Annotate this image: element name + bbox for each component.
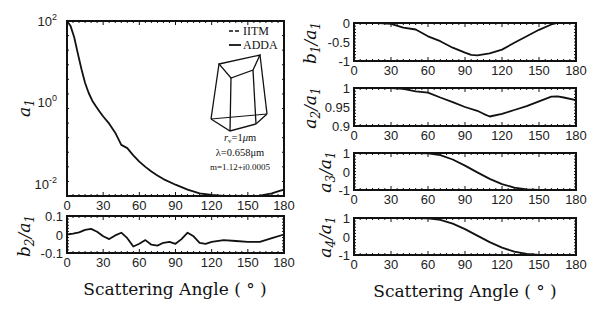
scattering-matrix-figure: 030609012015018010210010-203060901201501… <box>0 0 604 309</box>
x-tick-label: 60 <box>132 255 146 270</box>
panel-a4a1: 030609012015018010-1 <box>338 211 586 272</box>
x-tick-label: 30 <box>384 128 398 143</box>
x-tick-label: 120 <box>201 255 223 270</box>
x-tick-label: 150 <box>237 198 259 213</box>
ylabel-b1a1: b1/a1 <box>300 22 323 64</box>
x-tick-label: 30 <box>384 63 398 78</box>
x-tick-label: 120 <box>491 63 513 78</box>
x-tick-label: 60 <box>421 257 435 272</box>
y-tick-label: -0.1 <box>41 246 63 261</box>
x-tick-label: 180 <box>273 198 295 213</box>
legend-label-adda: ADDA <box>243 38 278 52</box>
series-adda <box>67 229 284 247</box>
x-tick-label: 180 <box>273 255 295 270</box>
x-tick-label: 30 <box>96 198 110 213</box>
x-tick-label: 0 <box>350 128 357 143</box>
x-tick-label: 90 <box>168 255 182 270</box>
series-adda <box>354 23 576 55</box>
x-tick-label: 0 <box>350 192 357 207</box>
x-tick-label: 180 <box>565 63 587 78</box>
x-tick-label: 150 <box>528 257 550 272</box>
x-tick-label: 90 <box>458 192 472 207</box>
y-tick-label: 102 <box>38 12 57 29</box>
axes-frame <box>354 153 576 190</box>
x-tick-label: 0 <box>63 198 70 213</box>
x-tick-label: 150 <box>528 192 550 207</box>
x-tick-label: 120 <box>491 192 513 207</box>
x-tick-label: 60 <box>421 192 435 207</box>
x-tick-label: 0 <box>350 257 357 272</box>
x-tick-label: 150 <box>237 255 259 270</box>
y-tick-label: 0.9 <box>332 119 350 134</box>
panel-a3a1: 030609012015018010-1 <box>338 146 586 207</box>
x-tick-label: 0 <box>350 63 357 78</box>
annotation-refractive-index: m=1.12+i0.0005 <box>210 162 271 172</box>
axes-frame <box>354 218 576 255</box>
panel-a2a1: 030609012015018010.950.9 <box>325 81 587 143</box>
x-tick-label: 90 <box>458 63 472 78</box>
x-tick-label: 120 <box>491 257 513 272</box>
x-tick-label: 60 <box>421 128 435 143</box>
x-tick-label: 180 <box>565 257 587 272</box>
x-tick-label: 90 <box>168 198 182 213</box>
y-tick-label: 0 <box>343 16 350 31</box>
x-tick-label: 120 <box>491 128 513 143</box>
x-tick-label: 60 <box>421 63 435 78</box>
annotation-wavelength: λ=0.658μm <box>216 147 264 158</box>
y-tick-label: -0.5 <box>328 35 350 50</box>
x-tick-label: 30 <box>384 257 398 272</box>
x-tick-label: 180 <box>565 128 587 143</box>
x-tick-label: 90 <box>458 128 472 143</box>
x-tick-label: 90 <box>458 257 472 272</box>
y-tick-label: 1 <box>343 81 350 96</box>
x-tick-label: 150 <box>528 128 550 143</box>
xlabel-left: Scattering Angle ( ° ) <box>83 279 266 299</box>
legend-label-iitm: IITM <box>243 24 269 38</box>
y-tick-label: 0 <box>56 228 63 243</box>
ylabel-a3a1: a3/a1 <box>315 151 338 192</box>
y-tick-label: 1 <box>343 211 350 226</box>
y-tick-label: -1 <box>338 183 350 198</box>
y-tick-label: 0 <box>343 165 350 180</box>
panel-b2a1: 03060901201501800.10-0.1 <box>41 209 295 270</box>
y-tick-label: -1 <box>338 54 350 69</box>
particle-shape-icon <box>211 55 267 131</box>
x-tick-label: 180 <box>565 192 587 207</box>
series-adda <box>354 88 576 117</box>
annotation-radius: rv=1μm <box>224 132 256 145</box>
y-tick-label: 10-2 <box>35 175 57 192</box>
y-tick-label: 0.95 <box>325 100 350 115</box>
x-tick-label: 150 <box>528 63 550 78</box>
x-tick-label: 0 <box>63 255 70 270</box>
series-adda <box>354 218 576 255</box>
x-tick-label: 30 <box>96 255 110 270</box>
ylabel-b2a1: b2/a1 <box>14 215 37 257</box>
x-tick-label: 30 <box>384 192 398 207</box>
y-tick-label: 0.1 <box>45 209 63 224</box>
panel-b1a1: 03060901201501800-0.5-1 <box>328 16 587 78</box>
y-tick-label: 1 <box>343 146 350 161</box>
y-tick-label: 0 <box>343 230 350 245</box>
xlabel-right: Scattering Angle ( ° ) <box>373 281 556 301</box>
ylabel-a2a1: a2/a1 <box>300 87 323 128</box>
x-tick-label: 60 <box>132 198 146 213</box>
series-adda <box>354 153 576 190</box>
legend: IITM ADDA <box>229 24 278 52</box>
x-tick-label: 120 <box>201 198 223 213</box>
y-tick-label: -1 <box>338 248 350 263</box>
ylabel-a1: a1 <box>14 99 37 117</box>
ylabel-a4a1: a4/a1 <box>315 216 338 257</box>
y-tick-label: 100 <box>38 93 57 110</box>
